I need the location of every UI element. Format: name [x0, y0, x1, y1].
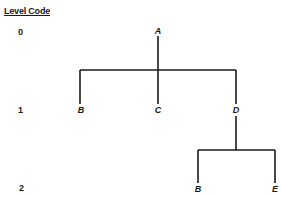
- node-a: A: [155, 26, 162, 36]
- node-d: D: [233, 105, 240, 115]
- node-e: E: [272, 184, 278, 194]
- node-b: B: [78, 105, 85, 115]
- node-lower-b: B: [195, 184, 202, 194]
- node-c: C: [155, 105, 162, 115]
- tree-connectors: [0, 0, 281, 197]
